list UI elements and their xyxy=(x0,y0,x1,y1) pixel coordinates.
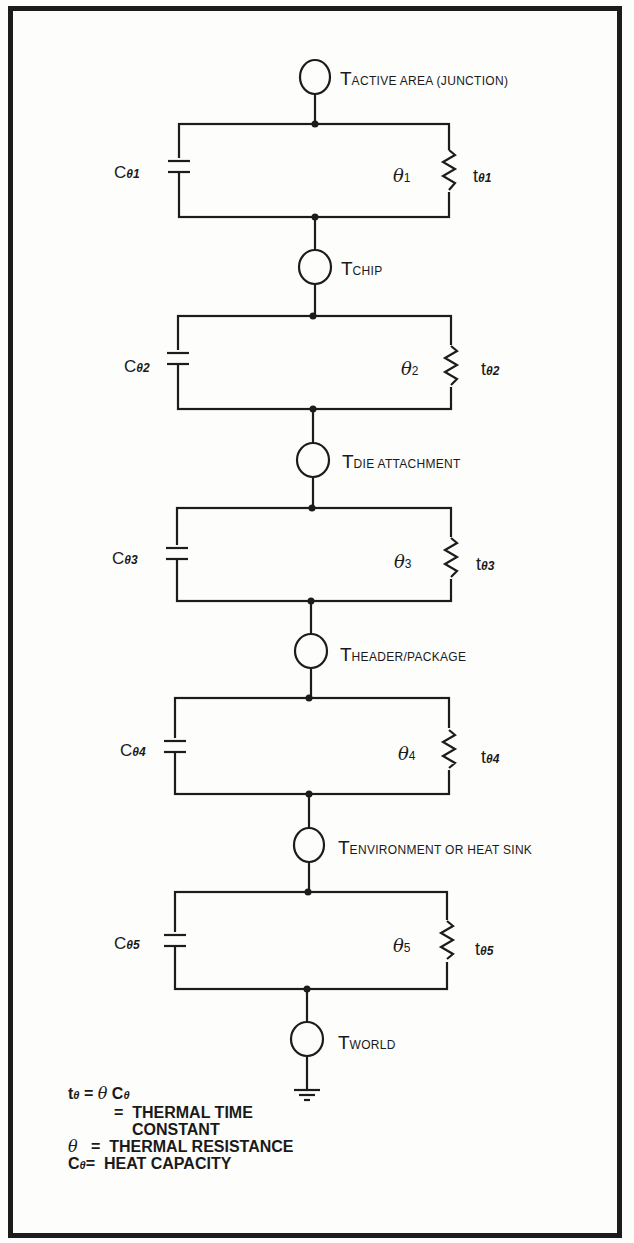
capacitor-label-5: Cθ5 xyxy=(114,935,140,952)
node-label-environment: TENVIRONMENT OR HEAT SINK xyxy=(338,838,532,857)
resistor-label-4: θ4 xyxy=(398,745,416,763)
thermal-circuit xyxy=(0,0,634,1243)
node-label-chip: TCHIP xyxy=(341,259,382,278)
legend-thermal-resistance: θ = THERMAL RESISTANCE xyxy=(68,1138,294,1155)
legend-time-constant-line2: CONSTANT xyxy=(68,1121,294,1138)
node-circle-chip xyxy=(299,250,331,284)
legend: tθ = θ Cθ = THERMAL TIME CONSTANT θ = TH… xyxy=(68,1085,294,1174)
time-constant-label-3: tθ3 xyxy=(476,555,494,573)
legend-time-constant-formula: tθ = θ Cθ xyxy=(68,1085,294,1104)
resistor-label-1: θ1 xyxy=(393,167,411,185)
node-circle-environment xyxy=(294,828,324,862)
resistor-label-3: θ3 xyxy=(394,553,412,571)
legend-time-constant-line1: = THERMAL TIME xyxy=(68,1104,294,1121)
node-label-active-area: TACTIVE AREA (JUNCTION) xyxy=(340,69,508,88)
node-circle-header-package xyxy=(295,634,327,668)
node-circle-active-area xyxy=(300,60,330,94)
node-label-die-attachment: TDIE ATTACHMENT xyxy=(342,452,461,471)
capacitor-label-1: Cθ1 xyxy=(114,164,140,181)
capacitor-label-3: Cθ3 xyxy=(112,550,138,567)
time-constant-label-1: tθ1 xyxy=(473,167,491,185)
capacitor-label-2: Cθ2 xyxy=(124,358,150,375)
resistor-label-2: θ2 xyxy=(401,360,419,378)
time-constant-label-4: tθ4 xyxy=(481,748,499,766)
time-constant-label-2: tθ2 xyxy=(481,360,499,378)
ground-icon xyxy=(294,1090,320,1100)
rc-stage-3 xyxy=(166,505,459,605)
rc-stage-5 xyxy=(164,889,455,993)
node-circle-die-attachment xyxy=(297,443,329,477)
legend-heat-capacity: Cθ= HEAT CAPACITY xyxy=(68,1155,294,1174)
capacitor-label-4: Cθ4 xyxy=(120,742,146,759)
node-label-world: TWORLD xyxy=(338,1033,396,1052)
rc-stage-1 xyxy=(168,121,457,221)
resistor-label-5: θ5 xyxy=(393,937,411,955)
time-constant-label-5: tθ5 xyxy=(475,940,493,958)
node-circle-world xyxy=(291,1022,323,1056)
node-label-header-package: THEADER/PACKAGE xyxy=(340,645,466,664)
